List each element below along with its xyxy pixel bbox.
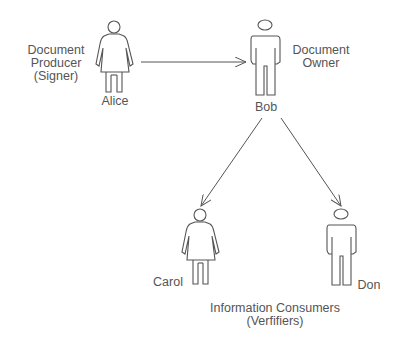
owner-role-label: Document Owner (285, 44, 357, 70)
don-name-label: Don (354, 279, 384, 292)
producer-line3: (Signer) (22, 70, 90, 83)
male-person-icon (327, 209, 356, 285)
male-person-icon (251, 20, 280, 95)
producer-role-label: Document Producer (Signer) (22, 44, 90, 83)
owner-line2: Owner (285, 57, 357, 70)
alice-name-label: Alice (98, 95, 132, 108)
arrow-bob-to-carol (201, 118, 262, 206)
female-person-icon (182, 209, 219, 284)
consumers-role-label: Information Consumers (Verfifiers) (190, 302, 360, 328)
bob-name-label: Bob (250, 101, 282, 114)
arrow-bob-to-don (281, 118, 341, 206)
consumers-line2: (Verfifiers) (190, 315, 360, 328)
female-person-icon (96, 21, 133, 92)
carol-name-label: Carol (148, 276, 188, 289)
